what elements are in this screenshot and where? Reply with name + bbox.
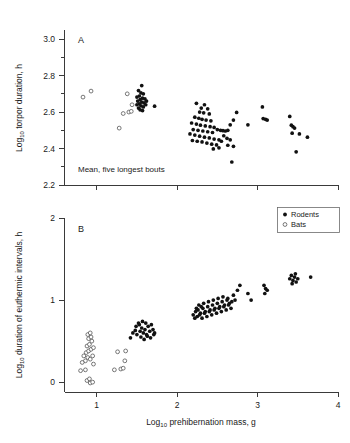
data-point-rodents xyxy=(207,136,211,140)
data-point-rodents xyxy=(193,133,197,137)
data-point-rodents xyxy=(265,118,269,122)
data-point-rodents xyxy=(203,135,207,139)
data-point-rodents xyxy=(217,306,221,310)
data-point-bats xyxy=(92,362,96,366)
data-point-rodents xyxy=(138,329,142,333)
data-point-rodents xyxy=(203,124,207,128)
x-tick-label: 1 xyxy=(94,400,99,410)
panel-b-ytick-label: 0 xyxy=(50,377,55,387)
data-point-rodents xyxy=(211,131,215,135)
data-point-rodents xyxy=(290,131,294,135)
data-point-bats xyxy=(80,361,84,365)
data-point-rodents xyxy=(195,101,199,105)
data-point-rodents xyxy=(135,103,139,107)
data-point-bats xyxy=(89,89,93,93)
data-point-rodents xyxy=(210,313,214,317)
data-point-rodents xyxy=(139,335,143,339)
data-point-rodents xyxy=(232,118,236,122)
data-point-rodents xyxy=(293,126,297,130)
data-point-bats xyxy=(116,350,120,354)
data-point-rodents xyxy=(191,128,195,132)
data-point-rodents xyxy=(207,112,211,116)
data-point-bats xyxy=(79,369,83,373)
data-point-rodents xyxy=(209,119,213,123)
data-point-rodents xyxy=(208,125,212,129)
data-point-rodents xyxy=(222,134,226,138)
data-point-rodents xyxy=(152,333,156,337)
data-point-rodents xyxy=(306,135,310,139)
data-point-rodents xyxy=(200,118,204,122)
data-point-rodents xyxy=(134,324,138,328)
data-point-rodents xyxy=(207,300,211,304)
data-point-rodents xyxy=(235,111,239,115)
data-point-rodents xyxy=(141,109,145,113)
data-point-bats xyxy=(88,331,92,335)
panel-b-letter: B xyxy=(78,224,84,234)
x-tick-label: 2 xyxy=(175,400,180,410)
panel-a-ytick-label: 2.2 xyxy=(43,180,55,190)
data-point-rodents xyxy=(195,306,199,310)
legend-marker-rodents xyxy=(283,213,287,217)
panel-a-ytick-label: 2.8 xyxy=(43,71,55,81)
data-point-rodents xyxy=(146,334,150,338)
data-point-rodents xyxy=(146,324,150,328)
data-point-rodents xyxy=(215,311,219,315)
data-point-bats xyxy=(117,126,121,130)
data-point-rodents xyxy=(198,110,202,114)
data-point-rodents xyxy=(205,141,209,145)
data-point-rodents xyxy=(135,95,139,99)
data-point-rodents xyxy=(196,128,200,132)
data-point-rodents xyxy=(291,279,295,283)
data-point-rodents xyxy=(212,308,216,312)
panel-a-annotation: Mean, five longest bouts xyxy=(78,165,165,174)
data-point-rodents xyxy=(288,277,292,281)
data-point-rodents xyxy=(206,107,210,111)
data-point-rodents xyxy=(215,128,219,132)
data-point-rodents xyxy=(197,116,201,120)
panel-b-x-ticklabels: 1234 xyxy=(94,400,340,410)
panel-a-ytick-label: 2.4 xyxy=(43,144,55,154)
data-point-rodents xyxy=(229,306,233,310)
panel-b-y-axis-title: Log10 duration of euthermic intervals, h xyxy=(14,231,25,378)
data-point-rodents xyxy=(296,277,300,281)
data-point-rodents xyxy=(290,282,294,286)
data-point-rodents xyxy=(217,146,221,150)
data-point-rodents xyxy=(230,300,234,304)
data-point-bats xyxy=(82,354,86,358)
data-point-bats xyxy=(123,359,127,363)
data-point-rodents xyxy=(143,328,147,332)
data-point-rodents xyxy=(232,144,236,148)
data-point-bats xyxy=(129,109,133,113)
data-point-rodents xyxy=(188,132,192,136)
data-point-rodents xyxy=(205,315,209,319)
data-point-bats xyxy=(91,354,95,358)
data-point-rodents xyxy=(215,143,219,147)
data-point-bats xyxy=(125,92,129,96)
data-point-rodents xyxy=(207,310,211,314)
data-point-rodents xyxy=(226,143,230,147)
data-point-rodents xyxy=(151,328,155,332)
data-point-rodents xyxy=(199,123,203,127)
x-tick-label: 3 xyxy=(255,400,260,410)
data-point-rodents xyxy=(262,283,266,287)
data-point-rodents xyxy=(211,147,215,151)
data-point-rodents xyxy=(193,115,197,119)
data-point-bats xyxy=(84,368,88,372)
data-point-bats xyxy=(121,366,125,370)
data-point-rodents xyxy=(263,292,267,296)
data-point-bats xyxy=(112,368,116,372)
data-point-rodents xyxy=(227,303,231,307)
panel-a-y-ticks xyxy=(59,39,65,185)
data-point-bats xyxy=(130,103,134,107)
data-point-rodents xyxy=(222,305,226,309)
data-point-rodents xyxy=(249,298,253,302)
data-point-rodents xyxy=(137,323,141,327)
data-point-rodents xyxy=(200,316,204,320)
data-point-rodents xyxy=(212,137,216,141)
panel-a-y-axis-title: Log10 torpor duration, h xyxy=(14,64,25,152)
data-point-rodents xyxy=(226,128,230,132)
data-point-rodents xyxy=(293,275,297,279)
data-point-rodents xyxy=(148,329,152,333)
data-point-bats xyxy=(121,112,125,116)
panel-a-letter: A xyxy=(78,35,84,45)
